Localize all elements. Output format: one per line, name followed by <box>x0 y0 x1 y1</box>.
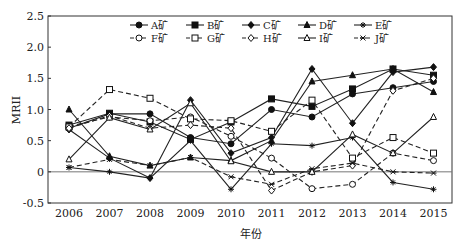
x-tick-label: 2008 <box>136 207 164 220</box>
star-marker-icon <box>107 169 113 175</box>
x-tick-label: 2015 <box>420 207 448 220</box>
legend-item: A矿 <box>130 19 168 31</box>
legend-item: C矿 <box>242 19 281 31</box>
open-diamond-marker-icon <box>248 35 254 42</box>
series-g <box>66 87 437 162</box>
x-axis-title: 年份 <box>240 227 262 241</box>
line-chart: -0.500.51.01.52.02.5 2006200720082009201… <box>0 0 461 246</box>
y-tick-label: 1.0 <box>27 104 45 117</box>
x-tick-label: 2006 <box>55 207 83 220</box>
open-triangle-marker-icon <box>350 131 356 137</box>
open-circle-marker-icon <box>136 35 142 41</box>
legend-label: G矿 <box>207 32 225 44</box>
legend-label: J矿 <box>374 32 389 44</box>
legend-item: I矿 <box>298 32 333 44</box>
open-circle-marker-icon <box>228 133 234 139</box>
legend-label: F矿 <box>151 32 168 44</box>
x-star-marker-icon <box>360 36 366 41</box>
open-square-marker-icon <box>192 35 198 41</box>
legend-label: E矿 <box>375 19 392 31</box>
open-circle-marker-icon <box>147 118 153 124</box>
legend-label: D矿 <box>319 19 337 31</box>
legend-label: H矿 <box>263 32 282 44</box>
x-tick-label: 2011 <box>258 207 286 220</box>
open-circle-marker-icon <box>350 181 356 187</box>
star-marker-icon <box>309 143 315 149</box>
legend-item: D矿 <box>298 19 337 31</box>
legend-label: B矿 <box>207 19 224 31</box>
open-square-marker-icon <box>431 150 437 156</box>
y-axis-title: MRII <box>10 96 23 124</box>
series-d <box>66 65 437 168</box>
plot-border <box>48 16 452 203</box>
open-circle-marker-icon <box>269 155 275 161</box>
open-diamond-marker-icon <box>188 122 194 129</box>
y-tick-label: 1.5 <box>27 72 45 85</box>
filled-square-marker-icon <box>350 86 356 92</box>
y-axis: -0.500.51.01.52.02.5 <box>23 10 51 210</box>
filled-circle-marker-icon <box>147 111 153 117</box>
filled-circle-marker-icon <box>228 141 234 147</box>
x-tick-label: 2010 <box>217 207 245 220</box>
legend-item: H矿 <box>242 32 282 44</box>
legend-label: C矿 <box>263 19 281 31</box>
filled-circle-marker-icon <box>309 114 315 120</box>
x-tick-label: 2012 <box>298 207 326 220</box>
x-axis: 2006200720082009201020112012201320142015 <box>55 207 448 220</box>
open-square-marker-icon <box>269 128 275 134</box>
x-star-marker-icon <box>431 171 437 176</box>
legend-label: I矿 <box>319 32 333 44</box>
legend-item: E矿 <box>354 19 392 31</box>
open-circle-marker-icon <box>431 158 437 164</box>
open-square-marker-icon <box>350 155 356 161</box>
x-star-marker-icon <box>269 182 275 187</box>
y-tick-label: 2.5 <box>27 10 45 23</box>
filled-triangle-marker-icon <box>431 89 437 95</box>
filled-circle-marker-icon <box>136 22 142 28</box>
open-diamond-marker-icon <box>269 187 275 194</box>
filled-square-marker-icon <box>269 96 275 102</box>
x-tick-label: 2009 <box>177 207 205 220</box>
y-tick-label: 0.5 <box>27 135 45 148</box>
legend: A矿B矿C矿D矿E矿F矿G矿H矿I矿J矿 <box>130 19 392 44</box>
star-marker-icon <box>360 22 366 28</box>
series-c <box>66 64 437 182</box>
open-circle-marker-icon <box>309 186 315 192</box>
open-square-marker-icon <box>107 87 113 93</box>
open-triangle-marker-icon <box>431 113 437 119</box>
series-b <box>66 66 437 142</box>
y-tick-label: 2.0 <box>27 41 45 54</box>
star-marker-icon <box>431 186 437 192</box>
x-tick-label: 2014 <box>379 207 407 220</box>
filled-triangle-marker-icon <box>66 106 72 112</box>
x-tick-label: 2013 <box>339 207 367 220</box>
legend-item: F矿 <box>130 32 168 44</box>
x-tick-label: 2007 <box>96 207 124 220</box>
open-square-marker-icon <box>147 95 153 101</box>
x-star-marker-icon <box>390 169 396 174</box>
filled-diamond-marker-icon <box>248 22 254 29</box>
filled-square-marker-icon <box>309 103 315 109</box>
open-square-marker-icon <box>390 135 396 141</box>
legend-item: J矿 <box>354 32 389 44</box>
filled-circle-marker-icon <box>269 107 275 113</box>
legend-item: G矿 <box>186 32 225 44</box>
legend-label: A矿 <box>150 19 168 31</box>
plot-area <box>48 16 452 203</box>
x-star-marker-icon <box>228 174 234 179</box>
legend-item: B矿 <box>186 19 224 31</box>
filled-square-marker-icon <box>192 22 198 28</box>
y-tick-label: 0 <box>37 166 44 179</box>
open-square-marker-icon <box>309 97 315 103</box>
y-tick-label: -0.5 <box>23 197 44 210</box>
filled-diamond-marker-icon <box>431 64 437 71</box>
series-layer <box>66 64 437 194</box>
open-square-marker-icon <box>228 118 234 124</box>
